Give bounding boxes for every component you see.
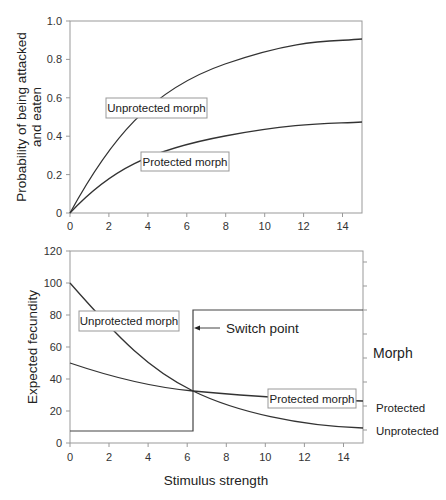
top-ytick: 0.8 <box>47 53 62 65</box>
top-xtick: 2 <box>106 220 112 232</box>
bottom-ytick: 0 <box>56 437 62 449</box>
top-xtick: 14 <box>336 220 348 232</box>
top-xtick: 8 <box>223 220 229 232</box>
bottom-xtick: 6 <box>184 451 190 463</box>
bottom-ytick: 20 <box>50 405 62 417</box>
bottom-xtick: 14 <box>337 451 349 463</box>
bottom-xtick: 4 <box>145 451 151 463</box>
top-ytick: 1.0 <box>47 15 62 27</box>
right-tick-unprotected: Unprotected <box>376 425 439 437</box>
top-xtick: 4 <box>145 220 151 232</box>
bottom-ytick: 100 <box>44 277 62 289</box>
bottom-ytick: 40 <box>50 373 62 385</box>
top-xtick: 6 <box>184 220 190 232</box>
top-ylabel-line1: Probability of being attacked <box>14 32 29 202</box>
top-unprotected-curve <box>70 39 362 213</box>
bottom-unprotected-label: Unprotected morph <box>80 315 178 327</box>
top-ylabel-line2: and eaten <box>29 87 44 147</box>
figure: 0 0.2 0.4 0.6 0.8 1.0 0 2 4 6 8 10 12 14 <box>0 0 446 500</box>
bottom-ylabel: Expected fecundity <box>25 290 40 404</box>
top-protected-label: Protected morph <box>142 156 227 168</box>
switch-point-label: Switch point <box>226 321 299 336</box>
bottom-chart: 0 20 40 60 80 100 120 0 2 4 6 8 <box>25 245 439 488</box>
top-xtick: 12 <box>297 220 309 232</box>
bottom-xtick: 2 <box>106 451 112 463</box>
bottom-plot-frame <box>70 251 363 443</box>
morph-axis-label: Morph <box>373 345 413 361</box>
top-unprotected-label: Unprotected morph <box>107 102 205 114</box>
top-xtick: 0 <box>67 220 73 232</box>
top-ytick: 0.4 <box>47 130 62 142</box>
bottom-xtick: 8 <box>223 451 229 463</box>
right-tick-protected: Protected <box>376 402 425 414</box>
bottom-xtick: 0 <box>67 451 73 463</box>
bottom-ytick: 120 <box>44 245 62 257</box>
top-ytick: 0.2 <box>47 169 62 181</box>
bottom-xtick: 12 <box>298 451 310 463</box>
top-ytick: 0.6 <box>47 92 62 104</box>
bottom-xtick: 10 <box>259 451 271 463</box>
bottom-ytick: 60 <box>50 341 62 353</box>
top-xtick: 10 <box>259 220 271 232</box>
top-ytick: 0 <box>56 207 62 219</box>
bottom-xlabel: Stimulus strength <box>164 473 268 488</box>
arrowhead-icon <box>194 326 200 331</box>
bottom-ytick: 80 <box>50 309 62 321</box>
top-chart: 0 0.2 0.4 0.6 0.8 1.0 0 2 4 6 8 10 12 14 <box>14 15 362 232</box>
bottom-protected-label: Protected morph <box>269 393 354 405</box>
